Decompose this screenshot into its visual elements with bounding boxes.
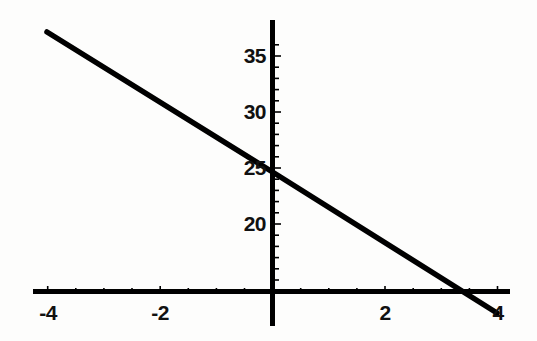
chart-figure: 35 30 25 20 -4 -2 2 4 <box>0 0 537 341</box>
y-tick-label-20: 20 <box>226 213 266 234</box>
plot-area <box>0 0 537 341</box>
x-tick-label-4: 4 <box>482 302 514 323</box>
x-tick-label-minus-4: -4 <box>26 302 70 323</box>
y-tick-label-25: 25 <box>226 157 266 178</box>
x-tick-label-2: 2 <box>369 302 401 323</box>
y-tick-label-35: 35 <box>226 45 266 66</box>
y-axis-minor-ticks <box>275 45 281 280</box>
y-tick-label-30: 30 <box>226 101 266 122</box>
x-tick-label-minus-2: -2 <box>138 302 182 323</box>
